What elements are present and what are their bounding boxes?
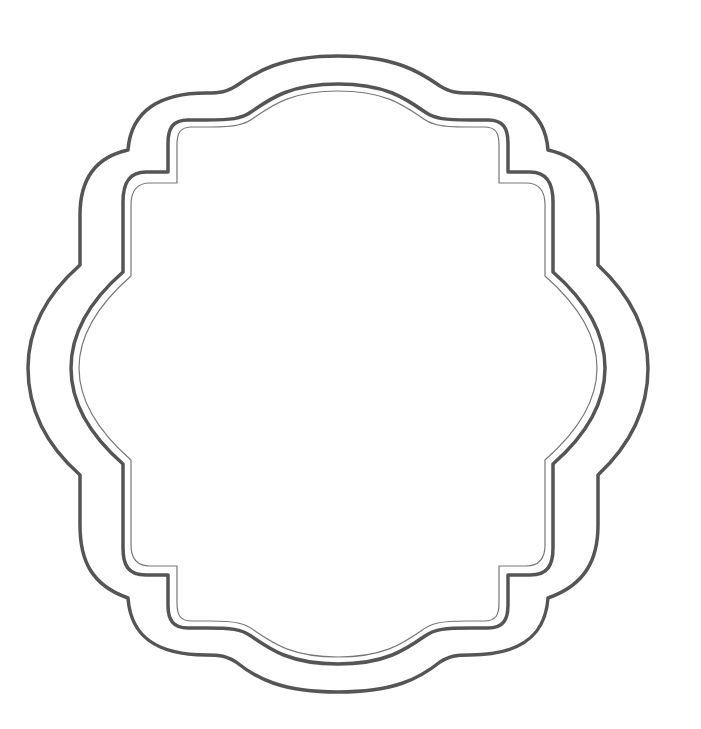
frame-canvas: Decorative scalloped frame outline [0, 0, 701, 729]
scalloped-frame-illustration [0, 0, 701, 729]
middle-frame-outline [71, 84, 605, 664]
inner-frame-outline [79, 91, 597, 657]
outer-frame-outline [28, 56, 648, 692]
